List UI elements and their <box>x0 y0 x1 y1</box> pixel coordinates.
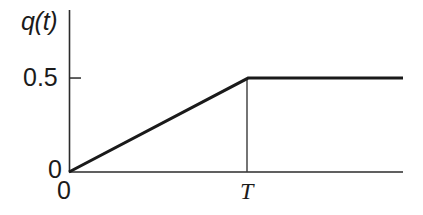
x-tick-label-T: T <box>240 179 253 203</box>
figure-canvas: q(t) 0.5 0 0 T <box>0 0 423 215</box>
y-axis-label: q(t) <box>21 9 57 34</box>
x-tick-label-zero: 0 <box>57 178 71 203</box>
q-of-t-curve <box>69 78 403 172</box>
y-tick-label-half: 0.5 <box>23 65 58 90</box>
